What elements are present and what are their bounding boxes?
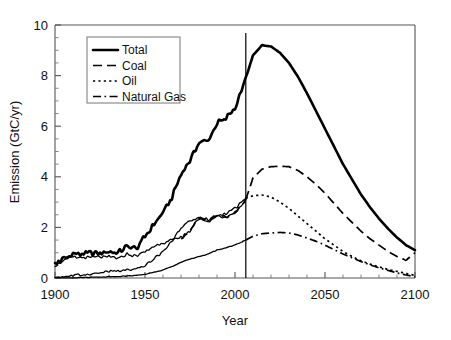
series-line-coal — [246, 166, 415, 260]
series-line-natural-gas-historical — [55, 240, 246, 278]
x-tick-label: 1950 — [131, 287, 160, 302]
legend: TotalCoalOilNatural Gas — [87, 37, 186, 104]
y-tick-label: 2 — [41, 220, 48, 235]
y-tick-label: 6 — [41, 119, 48, 134]
series-line-oil — [246, 195, 415, 275]
legend-label: Oil — [122, 74, 137, 88]
y-axis-ticks — [55, 25, 61, 278]
emission-projection-chart: 19001950200020502100 0246810 TotalCoalOi… — [0, 0, 451, 340]
y-axis-tick-labels: 0246810 — [34, 18, 48, 286]
x-tick-label: 2050 — [311, 287, 340, 302]
series-line-natural-gas — [246, 232, 415, 276]
x-tick-label: 2100 — [401, 287, 430, 302]
x-axis-tick-labels: 19001950200020502100 — [41, 287, 430, 302]
series-line-oil-historical — [55, 198, 246, 277]
y-tick-label: 0 — [41, 271, 48, 286]
chart-canvas: 19001950200020502100 0246810 TotalCoalOi… — [0, 0, 451, 340]
legend-label: Total — [122, 43, 147, 57]
x-tick-label: 2000 — [221, 287, 250, 302]
legend-label: Natural Gas — [122, 90, 186, 104]
y-tick-label: 10 — [34, 18, 48, 33]
y-tick-label: 8 — [41, 68, 48, 83]
y-tick-label: 4 — [41, 169, 48, 184]
x-axis-title: Year — [222, 313, 249, 328]
y-axis-title: Emission (GtC/yr) — [7, 101, 22, 204]
legend-label: Coal — [122, 59, 147, 73]
x-tick-label: 1900 — [41, 287, 70, 302]
